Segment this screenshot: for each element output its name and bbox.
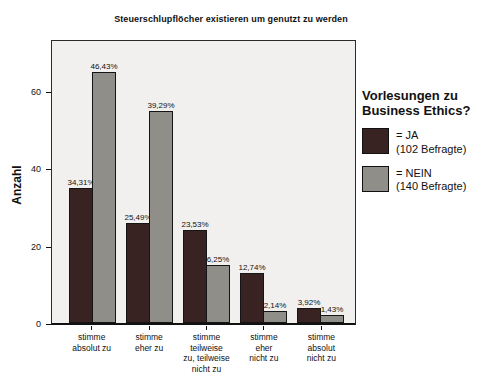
bar-nein: 1,43% — [320, 315, 344, 323]
legend-swatch-ja — [362, 128, 389, 154]
x-tick-mark — [91, 326, 92, 330]
bar-value-label: 6,25% — [207, 255, 230, 264]
y-axis: 0204060 — [0, 40, 51, 325]
plot-area: 34,31%46,43%25,49%39,29%23,53%6,25%12,74… — [51, 40, 356, 325]
bar-value-label: 34,31% — [67, 178, 94, 187]
y-tick-label: 0 — [36, 319, 41, 329]
bar-group: 12,74%2,14% — [240, 273, 287, 323]
x-category-label: stimme absolut zu — [63, 326, 120, 375]
bar-value-label: 39,29% — [147, 101, 174, 110]
x-tick-mark — [149, 326, 150, 330]
bar-nein: 2,14% — [263, 311, 287, 323]
chart-figure: { "page": { "background": "#ffffff" }, "… — [0, 0, 492, 381]
y-tick-label: 40 — [31, 164, 41, 174]
legend-item-label: = JA (102 Befragte) — [396, 128, 466, 156]
legend-swatch-nein — [362, 166, 389, 192]
bar-nein: 46,43% — [92, 72, 116, 323]
legend: Vorlesungen zu Business Ethics? = JA (10… — [362, 88, 484, 194]
legend-item-label: = NEIN (140 Befragte) — [396, 166, 466, 194]
bar-ja: 23,53% — [183, 230, 207, 323]
x-category-label: stimme eher nicht zu — [235, 326, 292, 375]
x-tick-mark — [263, 326, 264, 330]
bar-nein: 6,25% — [206, 265, 230, 323]
y-tick-label: 20 — [31, 242, 41, 252]
bar-ja: 25,49% — [126, 223, 150, 323]
bar-group: 3,92%1,43% — [297, 308, 344, 323]
bar-group: 34,31%46,43% — [69, 72, 116, 323]
y-tick-label: 60 — [31, 87, 41, 97]
x-axis-labels: stimme absolut zustimme eher zustimme te… — [51, 326, 356, 375]
legend-item-ja: = JA (102 Befragte) — [362, 128, 484, 156]
x-category-text: stimme eher zu — [120, 332, 177, 353]
bar-group: 25,49%39,29% — [126, 111, 173, 323]
x-tick-mark — [321, 326, 322, 330]
bar-value-label: 25,49% — [124, 213, 151, 222]
legend-title: Vorlesungen zu Business Ethics? — [362, 88, 484, 118]
bar-value-label: 23,53% — [181, 220, 208, 229]
x-category-text: stimme absolut zu — [63, 332, 120, 353]
bar-value-label: 46,43% — [90, 62, 117, 71]
legend-items: = JA (102 Befragte)= NEIN (140 Befragte) — [362, 128, 484, 194]
bar-value-label: 2,14% — [264, 301, 287, 310]
bar-ja: 12,74% — [240, 273, 264, 323]
bar-ja: 3,92% — [297, 308, 321, 323]
x-tick-mark — [206, 326, 207, 330]
legend-item-nein: = NEIN (140 Befragte) — [362, 166, 484, 194]
bar-nein: 39,29% — [149, 111, 173, 323]
bar-groups: 34,31%46,43%25,49%39,29%23,53%6,25%12,74… — [52, 41, 355, 323]
x-category-text: stimme absolut nicht zu — [293, 332, 350, 364]
bar-ja: 34,31% — [69, 188, 93, 323]
x-category-label: stimme teilweise zu, teilweise nicht zu — [178, 326, 235, 375]
bar-value-label: 3,92% — [298, 298, 321, 307]
bar-group: 23,53%6,25% — [183, 230, 230, 323]
bar-value-label: 1,43% — [321, 305, 344, 314]
bar-value-label: 12,74% — [238, 263, 265, 272]
x-category-text: stimme eher nicht zu — [235, 332, 292, 364]
x-category-label: stimme eher zu — [120, 326, 177, 375]
x-category-text: stimme teilweise zu, teilweise nicht zu — [178, 332, 235, 375]
x-category-label: stimme absolut nicht zu — [293, 326, 350, 375]
chart-title: Steuerschlupflöcher existieren um genutz… — [51, 14, 411, 24]
